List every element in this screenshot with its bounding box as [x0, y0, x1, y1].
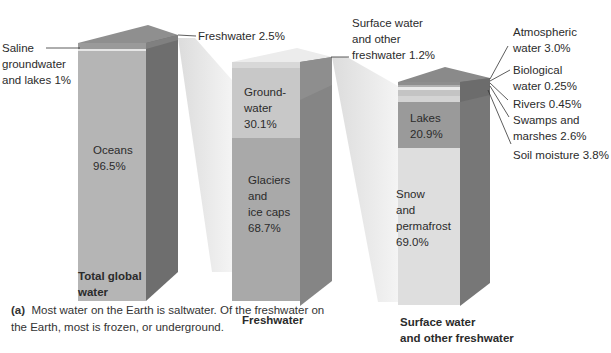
funnel-2: [332, 57, 398, 302]
label-surface-water-callout: Surface water and other freshwater 1.2%: [352, 15, 435, 63]
label-saline-groundwater: Saline groundwater and lakes 1%: [2, 40, 71, 88]
label-rivers: Rivers 0.45%: [513, 96, 581, 112]
label-biological-water: Biological water 0.25%: [513, 62, 577, 94]
label-snow-permafrost: Snow and permafrost 69.0%: [396, 186, 451, 250]
water-distribution-figure: Saline groundwater and lakes 1% Freshwat…: [0, 0, 611, 353]
label-glaciers: Glaciers and ice caps 68.7%: [248, 172, 290, 236]
caption-tag: (a): [11, 304, 25, 316]
label-groundwater: Ground- water 30.1%: [244, 84, 286, 132]
label-atmospheric-water: Atmospheric water 3.0%: [513, 24, 577, 56]
title-surface-water: Surface water and other freshwater: [400, 314, 514, 346]
label-lakes: Lakes 20.9%: [410, 110, 443, 142]
title-total-global-water: Total global water: [78, 268, 142, 300]
label-freshwater-callout: Freshwater 2.5%: [198, 28, 285, 44]
caption-text: Most water on the Earth is saltwater. Of…: [11, 304, 324, 333]
label-swamps-marshes: Swamps and marshes 2.6%: [513, 112, 587, 144]
label-soil-moisture: Soil moisture 3.8%: [513, 147, 609, 163]
funnel-1: [178, 38, 232, 272]
label-oceans: Oceans 96.5%: [93, 142, 133, 174]
figure-caption: (a) Most water on the Earth is saltwater…: [11, 302, 331, 336]
